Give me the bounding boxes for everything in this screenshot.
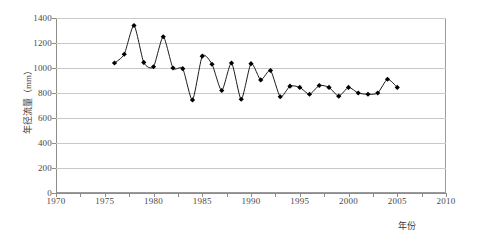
- data-point-marker: [278, 94, 283, 99]
- data-point-marker: [151, 64, 156, 69]
- data-point-marker: [365, 92, 370, 97]
- data-point-marker: [307, 92, 312, 97]
- data-point-marker: [170, 65, 175, 70]
- series-line: [115, 25, 398, 99]
- data-point-marker: [180, 66, 185, 71]
- data-point-marker: [356, 90, 361, 95]
- data-point-marker: [200, 54, 205, 59]
- data-point-marker: [239, 97, 244, 102]
- data-point-marker: [219, 88, 224, 93]
- data-point-marker: [209, 62, 214, 67]
- data-point-marker: [336, 94, 341, 99]
- data-point-marker: [268, 68, 273, 73]
- data-point-marker: [141, 60, 146, 65]
- series-runoff: [0, 0, 477, 240]
- data-point-marker: [161, 34, 166, 39]
- runoff-line-chart: 0200400600800100012001400 19701975198019…: [0, 0, 477, 240]
